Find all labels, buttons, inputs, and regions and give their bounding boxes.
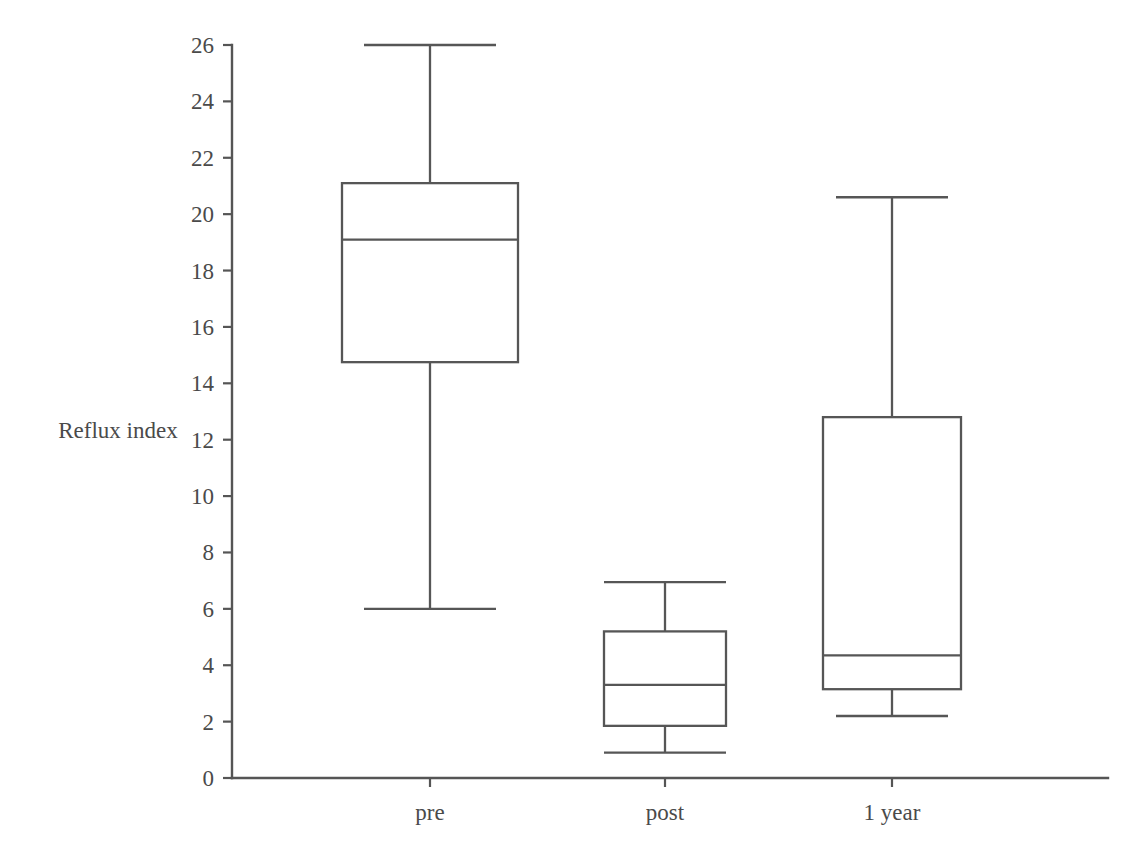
box-plot-post	[604, 582, 726, 753]
box-iqr	[823, 417, 961, 689]
box-plot-1-year	[823, 197, 961, 716]
y-tick-label: 2	[203, 710, 215, 735]
x-tick-label-0: pre	[415, 800, 444, 825]
box-iqr	[342, 183, 518, 362]
y-tick-label: 26	[191, 33, 214, 58]
box-plot-pre	[342, 45, 518, 609]
x-tick-label-2: 1 year	[864, 800, 921, 825]
box-plot-canvas: 02468101214161820222426 prepost1 year Re…	[0, 0, 1128, 845]
y-tick-label: 22	[191, 146, 214, 171]
x-tick-label-1: post	[646, 800, 685, 825]
y-axis-title: Reflux index	[58, 418, 178, 443]
y-tick-label: 16	[191, 315, 214, 340]
y-tick-label: 20	[191, 202, 214, 227]
y-tick-label: 0	[203, 766, 215, 791]
y-tick-label: 18	[191, 259, 214, 284]
box-series	[342, 45, 961, 753]
y-tick-label: 24	[191, 89, 215, 114]
box-iqr	[604, 631, 726, 725]
y-tick-label: 4	[203, 653, 215, 678]
box-plot-figure: 02468101214161820222426 prepost1 year Re…	[0, 0, 1128, 845]
y-axis: 02468101214161820222426	[191, 33, 232, 791]
y-tick-label: 12	[191, 428, 214, 453]
y-tick-label: 10	[191, 484, 214, 509]
x-axis: prepost1 year	[232, 778, 1108, 825]
y-tick-label: 8	[203, 540, 215, 565]
y-tick-label: 6	[203, 597, 215, 622]
y-tick-label: 14	[191, 371, 215, 396]
axis-labels: Reflux index	[58, 418, 178, 443]
